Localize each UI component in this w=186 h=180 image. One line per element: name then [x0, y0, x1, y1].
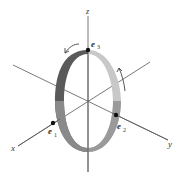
band-left-lower [55, 101, 88, 152]
x-axis-label: x [10, 143, 15, 153]
svg-text:e: e [117, 121, 121, 131]
y-axis-label: y [167, 139, 172, 149]
svg-text:3: 3 [97, 44, 100, 50]
svg-text:1: 1 [54, 132, 57, 138]
label-e2: e 2 [117, 121, 126, 133]
label-e1: e 1 [48, 126, 57, 138]
svg-text:2: 2 [123, 127, 126, 133]
point-e1 [51, 121, 55, 125]
label-e3: e 3 [91, 39, 100, 50]
rotation-band-diagram: z x y e 3 e 1 e 2 [0, 0, 186, 180]
z-axis-label: z [85, 7, 90, 16]
svg-text:e: e [91, 39, 95, 49]
svg-text:e: e [48, 126, 52, 136]
point-e3 [86, 48, 90, 52]
point-e2 [114, 113, 118, 117]
